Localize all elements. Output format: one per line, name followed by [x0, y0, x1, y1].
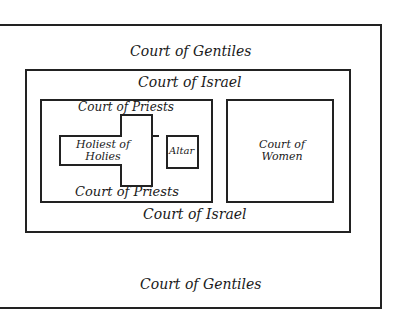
holiest-line-2: Holies	[76, 151, 130, 163]
women-line-2: Women	[259, 151, 305, 163]
holiest-line-1: Holiest of	[76, 139, 130, 151]
altar-label: Altar	[169, 146, 194, 157]
holiest-of-holies-label: Holiest of Holies	[76, 139, 130, 162]
women-line-1: Court of	[259, 139, 305, 151]
court-of-women-label: Court of Women	[259, 139, 305, 162]
